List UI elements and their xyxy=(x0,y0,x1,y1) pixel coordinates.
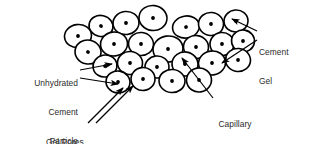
cement-paste-diagram-figure: Cement Gel Unhydrated Cement Particle Ca… xyxy=(0,0,324,144)
cement-particles-group xyxy=(63,4,256,95)
label-cement-gel: Cement Gel xyxy=(259,29,289,106)
label-capillary-pores: Capillary Pores xyxy=(206,101,264,144)
label-cement-gel-line1: Cement xyxy=(259,48,289,58)
leader-line-gel-pores-left xyxy=(88,88,123,123)
label-gel-pores: Gel Pores xyxy=(46,119,84,144)
cement-particle xyxy=(137,4,168,33)
label-gel-pores-line1: Gel Pores xyxy=(46,138,84,144)
label-capillary-pores-line1: Capillary xyxy=(206,120,264,130)
label-unhydrated-line1: Unhydrated xyxy=(8,79,78,89)
cement-particle xyxy=(158,69,186,94)
label-cement-gel-line2: Gel xyxy=(259,77,289,87)
label-unhydrated-line2: Cement xyxy=(8,108,78,118)
